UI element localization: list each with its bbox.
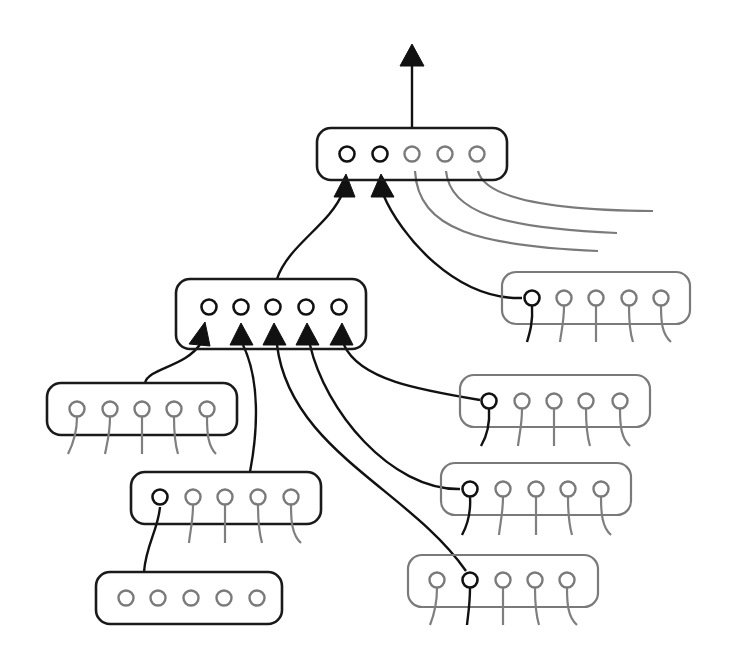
node-circle [482, 394, 497, 409]
node-circle [496, 573, 511, 588]
node-circle [561, 482, 576, 497]
node-circle [654, 291, 669, 306]
node-circle [515, 394, 530, 409]
node-circle [299, 300, 314, 315]
node-circle [613, 394, 628, 409]
node-circle [200, 402, 215, 417]
node-circle [470, 147, 485, 162]
output-arrow [400, 44, 424, 128]
group-bottom-right [408, 555, 598, 625]
node-circle [529, 482, 544, 497]
node-circle [266, 300, 281, 315]
node-circle [496, 482, 511, 497]
node-circle [438, 147, 453, 162]
group-right-2 [460, 375, 650, 446]
node-circle [373, 147, 388, 162]
node-circle [560, 573, 575, 588]
node-circle [186, 490, 201, 505]
node-circle [218, 490, 233, 505]
node-circle [250, 591, 265, 606]
node-circle [332, 300, 347, 315]
node-circle [103, 402, 118, 417]
node-circle [70, 402, 85, 417]
node-circle [430, 573, 445, 588]
arrowhead-icon [330, 323, 353, 345]
node-circle [151, 591, 166, 606]
group-bottom-left [96, 572, 282, 624]
node-circle [251, 490, 266, 505]
arrowhead-icon [334, 174, 355, 197]
arrowhead-icon [296, 323, 319, 345]
group-left-1 [47, 383, 237, 454]
arrowhead-icon [263, 323, 286, 345]
node-circle [589, 291, 604, 306]
node-circle [463, 573, 478, 588]
node-circle [405, 147, 420, 162]
node-circle [184, 591, 199, 606]
node-circle [340, 147, 355, 162]
arrowhead-icon [189, 322, 210, 346]
node-circle [547, 394, 562, 409]
node-circle [622, 291, 637, 306]
node-circle [463, 482, 478, 497]
node-circle [119, 591, 134, 606]
arrowhead-icon [371, 174, 394, 197]
node-circle [557, 291, 572, 306]
node-circle [528, 573, 543, 588]
edges-into-middle-box [144, 322, 480, 572]
node-circle [153, 490, 168, 505]
node-circle [525, 291, 540, 306]
diagram-canvas [0, 0, 734, 664]
node-circle [234, 300, 249, 315]
arrowhead-icon [400, 44, 424, 66]
node-circle [284, 490, 299, 505]
node-circle [135, 402, 150, 417]
node-circle [202, 300, 217, 315]
arrowhead-icon [230, 323, 253, 345]
top-box-outgoing-gray-edges [415, 171, 653, 251]
group-right-3 [441, 463, 631, 535]
node-circle [217, 591, 232, 606]
node-circle [594, 482, 609, 497]
node-circle [579, 394, 594, 409]
node-circle [167, 402, 182, 417]
group-right-1 [502, 272, 690, 342]
